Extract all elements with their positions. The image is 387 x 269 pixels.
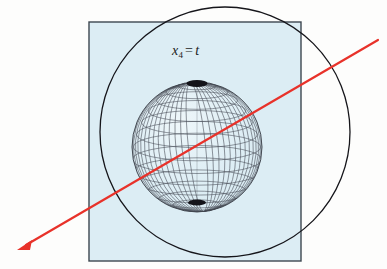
slice-label-equals: = — [183, 43, 195, 58]
arrow-head — [17, 240, 32, 250]
sphere-south-pole-cap — [188, 200, 206, 206]
slice-time-label: x4=t — [172, 43, 199, 60]
slice-label-value: t — [195, 43, 199, 58]
figure-root: x4=t — [0, 0, 387, 269]
sphere-north-pole-cap — [187, 80, 208, 87]
figure-canvas — [0, 0, 387, 269]
